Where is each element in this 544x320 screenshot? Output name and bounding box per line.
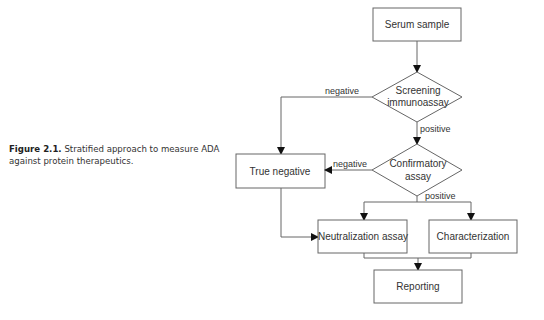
reporting-label: Reporting bbox=[396, 281, 439, 292]
neutralization-label: Neutralization assay bbox=[318, 231, 408, 242]
screening-positive-label: positive bbox=[420, 124, 451, 134]
screening-label-line1: Screening bbox=[395, 85, 440, 96]
screening-negative-label: negative bbox=[325, 86, 359, 96]
serum-sample-label: Serum sample bbox=[385, 19, 450, 30]
edge-screening-negative bbox=[281, 97, 372, 154]
confirmatory-label-line2: assay bbox=[405, 171, 431, 182]
confirmatory-label-line1: Confirmatory bbox=[389, 158, 446, 169]
screening-label-line2: immunoassay bbox=[387, 97, 449, 108]
node-reporting: Reporting bbox=[374, 270, 462, 303]
node-confirmatory-assay: Confirmatory assay bbox=[372, 144, 462, 196]
node-characterization: Characterization bbox=[429, 220, 517, 253]
true-negative-label: True negative bbox=[250, 166, 311, 177]
edge-merge-to-reporting bbox=[364, 253, 471, 270]
confirmatory-negative-label: negative bbox=[333, 159, 367, 169]
edge-true-negative-to-neutralization bbox=[281, 188, 318, 237]
node-screening-immunoassay: Screening immunoassay bbox=[372, 72, 462, 122]
node-neutralization-assay: Neutralization assay bbox=[318, 220, 408, 253]
confirmatory-positive-label: positive bbox=[425, 191, 456, 201]
flowchart: Serum sample Screening immunoassay negat… bbox=[0, 0, 544, 320]
characterization-label: Characterization bbox=[437, 231, 510, 242]
node-serum-sample: Serum sample bbox=[373, 8, 461, 41]
node-true-negative: True negative bbox=[236, 154, 325, 188]
